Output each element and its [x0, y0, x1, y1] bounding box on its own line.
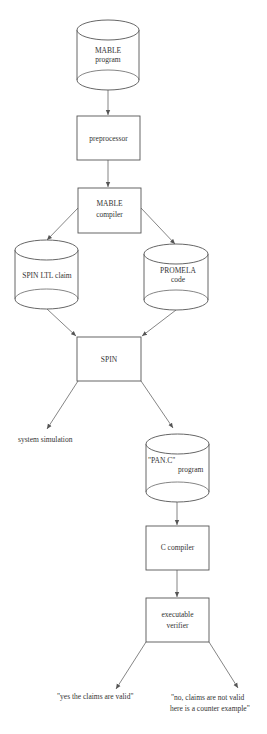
mable-compiler-node: MABLE compiler	[78, 188, 141, 233]
system-simulation-label: system simulation	[18, 435, 73, 444]
preprocessor-label: preprocessor	[89, 134, 128, 143]
promela-code-node: PROMELA code	[144, 244, 208, 310]
edge-spin-to-pan-c	[141, 381, 173, 428]
spin-ltl-claim-node: SPIN LTL claim	[15, 240, 78, 309]
spin-label: SPIN	[101, 355, 118, 364]
edge-promela-to-spin	[142, 310, 176, 336]
executable-verifier-label-1: executable	[161, 610, 194, 619]
edge-compiler-to-ltl-claim	[47, 208, 78, 240]
promela-code-label-2: code	[171, 275, 186, 284]
claims-not-valid-label-2: here is a counter example"	[170, 704, 250, 713]
pan-c-program-node: "PAN.C" program	[146, 434, 209, 502]
spin-node: SPIN	[77, 337, 141, 381]
pan-c-label-1: "PAN.C"	[148, 456, 175, 465]
edge-compiler-to-promela	[141, 208, 175, 244]
flowchart-diagram: MABLE program preprocessor MABLE compile…	[0, 0, 267, 734]
preprocessor-node: preprocessor	[77, 116, 140, 160]
executable-verifier-node: executable verifier	[146, 598, 209, 642]
mable-compiler-label-1: MABLE	[96, 199, 123, 208]
mable-program-node: MABLE program	[77, 20, 139, 90]
c-compiler-label: C compiler	[161, 543, 195, 552]
edge-spin-to-simulation	[47, 381, 78, 429]
executable-verifier-label-2: verifier	[166, 621, 189, 630]
promela-code-label-1: PROMELA	[160, 266, 196, 275]
c-compiler-node: C compiler	[146, 526, 209, 570]
pan-c-label-2: program	[178, 465, 204, 474]
mable-compiler-label-2: compiler	[96, 210, 123, 219]
mable-program-label-1: MABLE	[95, 46, 122, 55]
spin-ltl-claim-label: SPIN LTL claim	[22, 271, 72, 280]
edge-ltl-claim-to-spin	[47, 309, 76, 336]
claims-valid-label: "yes the claims are valid"	[57, 692, 134, 701]
edge-verifier-to-not-valid	[209, 642, 238, 688]
mable-program-label-2: program	[95, 55, 121, 64]
edge-verifier-to-valid	[116, 642, 146, 689]
claims-not-valid-label-1: "no, claims are not valid	[171, 693, 244, 702]
